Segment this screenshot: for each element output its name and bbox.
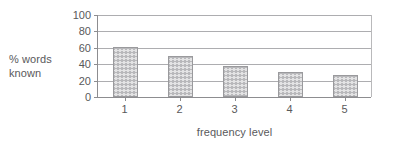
y-axis-tick-0 [94,97,98,98]
x-axis-tick-2 [180,97,181,101]
y-axis-title-line-0: % words [9,52,71,66]
y-axis-tick-label-80: 80 [79,26,91,37]
x-axis-tick-label-3: 3 [231,103,237,115]
y-axis-title-line-1: known [9,66,71,80]
plot-area: 020406080100 [97,15,372,97]
bars [98,15,371,97]
bar-chart-figure: % wordsknown 020406080100 12345 frequenc… [0,0,395,153]
bar-3[interactable] [223,66,248,97]
x-axis-tick-3 [235,97,236,101]
x-axis-tick-label-4: 4 [286,103,292,115]
bar-5[interactable] [333,75,358,97]
x-axis-tick-label-2: 2 [176,103,182,115]
bar-slot [333,15,358,97]
bar-4[interactable] [278,72,303,97]
x-axis-tick-label-1: 1 [121,103,127,115]
bar-slot [223,15,248,97]
bar-2[interactable] [168,56,193,97]
x-axis-tick-label-5: 5 [341,103,347,115]
y-axis-tick-label-100: 100 [73,10,91,21]
bar-slot [168,15,193,97]
y-axis-title: % wordsknown [9,52,71,80]
x-axis-tick-1 [125,97,126,101]
bar-slot [278,15,303,97]
y-axis-tick-label-20: 20 [79,75,91,86]
x-axis-tick-5 [345,97,346,101]
bar-slot [113,15,138,97]
y-axis-tick-label-0: 0 [85,92,91,103]
bar-1[interactable] [113,47,138,97]
x-axis-tick-4 [290,97,291,101]
y-axis-tick-label-60: 60 [79,42,91,53]
x-axis-title: frequency level [97,126,372,138]
y-axis-tick-label-40: 40 [79,59,91,70]
